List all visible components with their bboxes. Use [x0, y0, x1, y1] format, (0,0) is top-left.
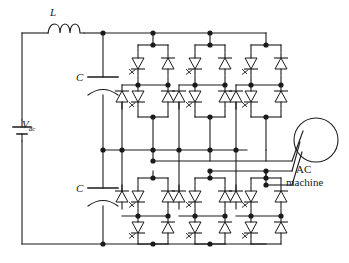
- capacitor-bottom-symbol: [88, 188, 118, 206]
- inductor-label: L: [50, 6, 56, 18]
- dc-loop-wiring: [22, 33, 103, 244]
- ac-machine-label-line2: machine: [286, 176, 323, 188]
- capacitor-bottom-label: C: [76, 182, 83, 194]
- ac-machine-symbol: [294, 118, 338, 162]
- capacitor-top-symbol: [88, 77, 118, 95]
- phase-leg-1: [116, 33, 175, 244]
- circuit-schematic: .w { stroke:#1a1a1a; stroke-width:1.1; f…: [0, 0, 349, 263]
- inductor-symbol: [48, 24, 84, 33]
- dc-source-label-main: V: [22, 118, 29, 130]
- ac-machine-label-line1: AC: [296, 163, 311, 175]
- dc-source-label: Vdc: [22, 118, 35, 133]
- phase-leg-3: [230, 33, 288, 244]
- phase-output-wiring: [153, 131, 303, 185]
- dc-source-label-sub: dc: [29, 125, 36, 133]
- phase-leg-2: [173, 33, 232, 244]
- figure-canvas: .w { stroke:#1a1a1a; stroke-width:1.1; f…: [0, 0, 349, 263]
- capacitor-top-label: C: [76, 71, 83, 83]
